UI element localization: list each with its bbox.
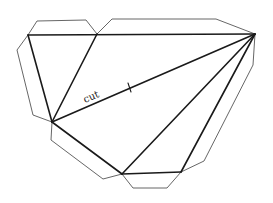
tab-top-right (97, 19, 255, 34)
edge-b-d (52, 34, 97, 122)
tab-top-left (28, 20, 97, 35)
edge-c-f (181, 34, 255, 172)
edge-a-c (28, 34, 255, 35)
tab-left (17, 35, 52, 122)
edge-c-d-cut (52, 34, 255, 122)
edge-c-e (122, 34, 255, 174)
net-diagram: cut (0, 0, 273, 203)
tab-lower-left (51, 122, 122, 179)
edge-d-e (52, 122, 122, 174)
edge-e-f (122, 172, 181, 174)
